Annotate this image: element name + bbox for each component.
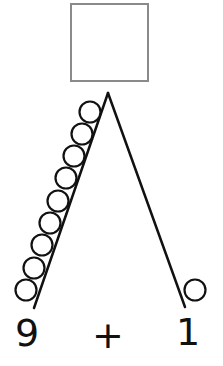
counter-circle-icon bbox=[185, 280, 206, 301]
left-counters bbox=[16, 102, 101, 301]
counter-circle-icon bbox=[56, 168, 77, 189]
left-addend: 9 bbox=[7, 314, 47, 352]
counter-circle-icon bbox=[80, 102, 101, 123]
counter-circle-icon bbox=[16, 280, 37, 301]
counter-circle-icon bbox=[64, 146, 85, 167]
left-branch-line bbox=[34, 93, 108, 308]
counter-circle-icon bbox=[72, 124, 93, 145]
counter-circle-icon bbox=[40, 213, 61, 234]
right-branch-line bbox=[108, 93, 185, 307]
counter-circle-icon bbox=[48, 191, 69, 212]
plus-operator: + bbox=[88, 316, 128, 354]
counter-circle-icon bbox=[32, 235, 53, 256]
right-counters bbox=[185, 280, 206, 301]
right-addend: 1 bbox=[168, 313, 208, 351]
counter-circle-icon bbox=[24, 258, 45, 279]
